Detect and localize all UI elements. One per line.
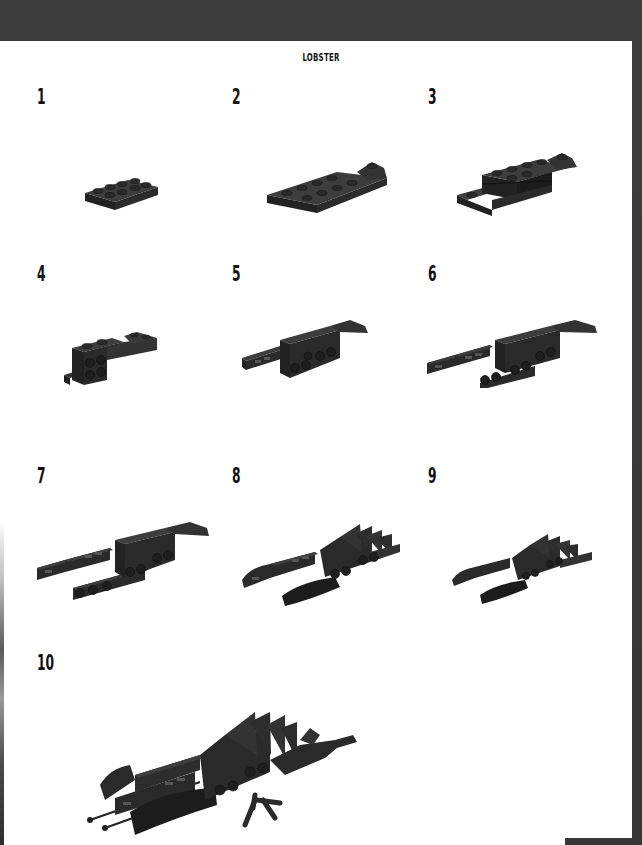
step-number-9: 9: [428, 465, 437, 487]
step-1-model-image: [80, 165, 160, 215]
step-number-10: 10: [37, 652, 54, 674]
step-number-4: 4: [37, 263, 46, 285]
corner-bar: [565, 838, 642, 845]
step-number-5: 5: [232, 263, 241, 285]
step-number-2: 2: [232, 86, 241, 108]
step-number-6: 6: [428, 263, 437, 285]
page-title: LOBSTER: [71, 52, 572, 63]
step-4-model-image: [62, 330, 162, 390]
step-5-model-image: [240, 318, 370, 388]
step-8-model-image: [240, 522, 400, 607]
step-7-model-image: [35, 520, 210, 600]
page-edge-shadow: [0, 520, 4, 845]
step-6-model-image: [425, 318, 605, 388]
step-3-model-image: [452, 150, 582, 220]
step-9-model-image: [450, 530, 595, 605]
step-2-model-image: [262, 150, 392, 220]
step-10-model-image: [85, 700, 360, 840]
step-number-8: 8: [232, 465, 241, 487]
step-number-3: 3: [428, 86, 437, 108]
step-number-1: 1: [37, 86, 46, 108]
step-number-7: 7: [37, 465, 46, 487]
